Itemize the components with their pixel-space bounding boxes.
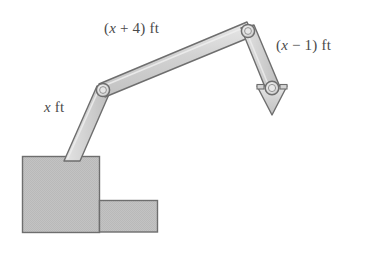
- mechanical-arm-figure: (x + 4) ft (x − 1) ft x ft: [0, 0, 373, 253]
- elbow-joint-inner: [100, 87, 107, 94]
- arrowhead-crossbar-left: [257, 85, 264, 90]
- label-tool-arm: (x − 1) ft: [276, 37, 331, 54]
- base-block-small: [100, 201, 158, 233]
- label-upper-arm: (x + 4) ft: [104, 20, 159, 37]
- base-block-large: [23, 157, 100, 233]
- label-lower-arm: x ft: [44, 99, 64, 116]
- shoulder-joint-inner: [245, 28, 252, 35]
- wrist-joint-inner: [268, 84, 275, 91]
- base-assembly: [23, 157, 158, 233]
- arrowhead-crossbar-right: [280, 85, 287, 90]
